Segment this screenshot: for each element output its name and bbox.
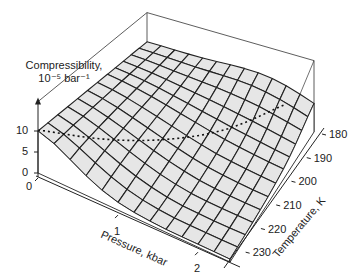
- z-axis-title-units: 10⁻⁵ bar⁻¹: [22, 72, 106, 85]
- y-tick-mark: [307, 158, 311, 159]
- y-tick-230: 230: [253, 246, 271, 259]
- z-axis-title: Compressibility, 10⁻⁵ bar⁻¹: [22, 59, 106, 85]
- y-tick-220: 220: [268, 223, 286, 236]
- x-tick-mark: [35, 178, 38, 181]
- z-axis-title-line1: Compressibility,: [22, 59, 106, 72]
- y-tick-mark: [291, 181, 295, 182]
- y-tick-190: 190: [314, 152, 332, 165]
- y-tick-200: 200: [298, 175, 316, 188]
- chart-root: Compressibility, 10⁻⁵ bar⁻¹ 0 5 10 0 1 2…: [0, 0, 350, 277]
- y-tick-mark: [322, 134, 326, 135]
- z-tick-0: 0: [22, 166, 28, 179]
- x-tick-mark: [195, 252, 198, 255]
- y-tick-180: 180: [329, 128, 347, 141]
- y-tick-mark: [246, 252, 250, 253]
- x-tick-mark: [115, 215, 118, 218]
- x-tick-0: 0: [26, 180, 32, 193]
- x-tick-2: 2: [194, 262, 200, 275]
- y-tick-210: 210: [283, 199, 301, 212]
- y-tick-mark: [276, 205, 280, 206]
- z-axis-arrow-icon: [35, 98, 41, 105]
- y-tick-mark: [261, 229, 265, 230]
- z-tick-10: 10: [16, 124, 28, 137]
- z-tick-5: 5: [22, 145, 28, 158]
